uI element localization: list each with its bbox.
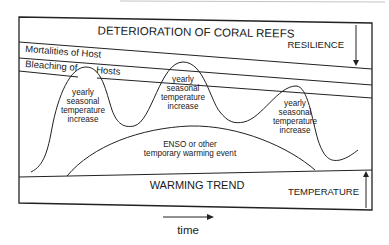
svg-text:yearly: yearly <box>72 88 95 97</box>
svg-text:seasonal: seasonal <box>279 108 312 117</box>
peak-1-label: yearly seasonal temperature increase <box>61 88 106 124</box>
scan-artifact-line <box>120 1 385 2</box>
time-label: time <box>177 224 199 236</box>
warming-trend-label: WARMING TREND <box>150 179 245 191</box>
svg-text:temperature: temperature <box>61 106 106 115</box>
svg-text:increase: increase <box>280 126 311 135</box>
mortalities-band-label: Mortalities of Host <box>25 43 102 60</box>
temperature-arrow-icon <box>363 171 369 177</box>
svg-text:temperature: temperature <box>273 117 318 126</box>
svg-text:increase: increase <box>168 102 199 111</box>
svg-text:increase: increase <box>68 115 99 124</box>
diagram-title: DETERIORATION OF CORAL REEFS <box>98 24 295 39</box>
peak-3-label: yearly seasonal temperature increase <box>273 99 318 135</box>
svg-text:yearly: yearly <box>284 99 307 108</box>
svg-text:temporary warming event: temporary warming event <box>144 149 237 158</box>
svg-text:yearly: yearly <box>172 75 195 84</box>
svg-text:seasonal: seasonal <box>67 97 100 106</box>
svg-text:temperature: temperature <box>161 93 206 102</box>
bleaching-band-label: Bleaching of <box>25 58 78 73</box>
resilience-arrow-icon <box>353 60 359 66</box>
time-arrow-icon <box>207 214 214 220</box>
resilience-label: RESILIENCE <box>288 39 345 50</box>
svg-text:ENSO or other: ENSO or other <box>163 140 217 149</box>
peak-2-label: yearly seasonal temperature increase <box>161 75 206 111</box>
svg-text:seasonal: seasonal <box>167 84 200 93</box>
temperature-label: TEMPERATURE <box>288 186 359 197</box>
enso-label: ENSO or other temporary warming event <box>144 140 237 158</box>
bleaching-hosts-label: Hosts <box>96 64 121 77</box>
coral-reef-diagram: DETERIORATION OF CORAL REEFS RESILIENCE … <box>0 0 389 245</box>
